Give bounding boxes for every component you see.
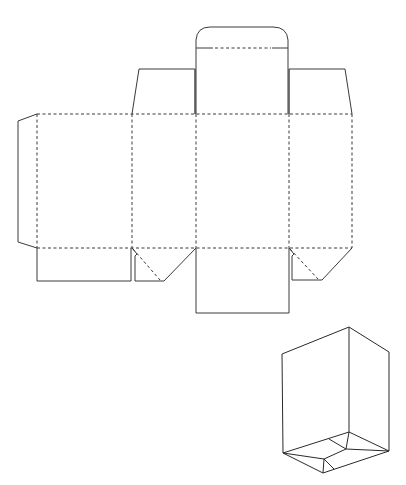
bottom-flap-line-c: [346, 449, 389, 451]
bottom-lock-flap-2: [132, 248, 196, 281]
glue-flap-cut: [18, 114, 37, 248]
bottom-lock-flap-4: [289, 248, 352, 280]
box-template-diagram: [0, 0, 406, 485]
isometric-box: [282, 327, 389, 473]
dust-flap-left: [132, 69, 195, 114]
bottom-flap-line-b: [346, 432, 349, 449]
bottom-flap-line-g: [324, 459, 334, 469]
box-bottom-back-right: [349, 432, 389, 451]
dust-flap-right: [289, 69, 352, 114]
bottom-flap-1: [37, 248, 131, 281]
dieline-net: [18, 27, 352, 313]
bottom-flap-line-a: [329, 439, 346, 449]
bottom-flap-3: [196, 248, 289, 313]
bottom-lock-flap-2-fold: [133, 249, 160, 280]
box-outline: [282, 327, 389, 473]
top-lid-and-tuck-flap: [196, 27, 288, 114]
bottom-lock-flap-4-fold: [290, 249, 318, 279]
bottom-flap-line-e: [324, 449, 346, 459]
bottom-flap-line-f: [323, 459, 324, 473]
box-bottom-back-left: [283, 432, 349, 453]
